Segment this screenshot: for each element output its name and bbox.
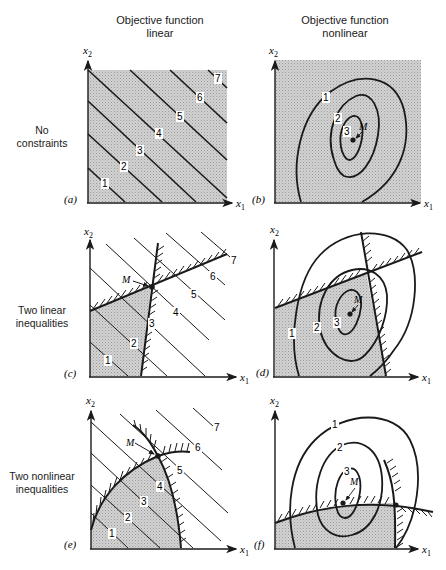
contour-label-1: 1 — [102, 178, 108, 189]
x1-axis-label: x1 — [423, 197, 433, 212]
x1-axis-label: x1 — [235, 197, 245, 212]
contour-label-1: 1 — [109, 528, 115, 539]
contour-label-3: 3 — [334, 317, 340, 328]
panel-d: M 1 2 3 x2 x1 (d) — [256, 223, 431, 386]
x1-axis-label: x1 — [239, 543, 249, 558]
figure-canvas: 1 2 3 4 5 6 7 x2 x1 (a) M 1 2 3 x2 — [0, 0, 446, 570]
optimum-point — [340, 500, 345, 505]
panel-label: (b) — [252, 193, 265, 206]
panel-label: (f) — [254, 538, 265, 551]
optimum-label: M — [353, 294, 363, 305]
panel-label: (e) — [64, 538, 77, 551]
optimum-point — [347, 311, 352, 316]
panel-label: (c) — [64, 367, 77, 380]
constraint-hatch-1 — [93, 249, 226, 309]
contour-label-7: 7 — [215, 73, 221, 84]
contour-label-2: 2 — [314, 322, 320, 333]
x1-axis-label: x1 — [239, 371, 249, 386]
contour-label-3: 3 — [137, 145, 143, 156]
contour-label-2: 2 — [125, 512, 131, 523]
x2-axis-label: x2 — [85, 394, 95, 409]
constraint-hatch-3 — [134, 420, 189, 454]
x2-axis-label: x2 — [83, 225, 93, 240]
optimum-label: M — [121, 274, 131, 285]
contour-label-4: 4 — [156, 128, 162, 139]
feasible-region — [91, 456, 181, 548]
contour-label-1: 1 — [323, 92, 329, 103]
optimum-label: M — [125, 437, 135, 448]
contour-label-2: 2 — [337, 442, 343, 453]
contour-label-6: 6 — [197, 92, 203, 103]
contour-label-1: 1 — [332, 419, 338, 430]
x1-axis-label: x1 — [421, 371, 431, 386]
panel-label: (a) — [64, 193, 77, 206]
panel-a: 1 2 3 4 5 6 7 x2 x1 (a) — [64, 44, 245, 212]
contour-label-6: 6 — [210, 271, 216, 282]
contour-label-2: 2 — [131, 338, 137, 349]
x2-axis-label: x2 — [269, 394, 279, 409]
panel-c: M 1 2 3 4 5 6 7 x2 x1 (c) — [64, 225, 249, 386]
optimum-point — [350, 137, 355, 142]
panel-e: M 1 2 3 4 5 6 7 x2 x1 (e) — [64, 394, 249, 558]
contour-label-7: 7 — [214, 422, 220, 433]
x1-axis-label: x1 — [421, 543, 431, 558]
contour-label-7: 7 — [231, 255, 237, 266]
contour-label-5: 5 — [191, 289, 197, 300]
contour-label-1: 1 — [289, 328, 295, 339]
optimum-label: M — [349, 476, 359, 487]
contour-label-1: 1 — [105, 355, 111, 366]
panel-f: M 1 2 3 x2 x1 (f) — [254, 394, 433, 558]
optimum-label: M — [358, 121, 368, 132]
panel-label: (d) — [256, 366, 269, 379]
contour-label-3: 3 — [344, 466, 350, 477]
contour-label-3: 3 — [149, 318, 155, 329]
x2-axis-label: x2 — [82, 44, 92, 59]
contour-label-6: 6 — [195, 442, 201, 453]
constraint-curve-2 — [133, 425, 190, 456]
contour-label-5: 5 — [177, 111, 183, 122]
panel-b: M 1 2 3 x2 x1 (b) — [252, 44, 433, 212]
optimum-point — [149, 284, 155, 290]
contour-label-3: 3 — [141, 496, 147, 507]
x2-axis-label: x2 — [268, 44, 278, 59]
contour-label-2: 2 — [121, 161, 127, 172]
contour-label-3: 3 — [344, 126, 350, 137]
x2-axis-label: x2 — [269, 223, 279, 238]
constraint-intersection-point — [393, 502, 398, 507]
contour-label-2: 2 — [335, 113, 341, 124]
contour-label-4: 4 — [173, 307, 179, 318]
contour-labels: 1 2 3 — [331, 419, 351, 477]
optimum-point — [155, 453, 161, 459]
contour-label-4: 4 — [157, 481, 163, 492]
contour-label-5: 5 — [177, 465, 183, 476]
